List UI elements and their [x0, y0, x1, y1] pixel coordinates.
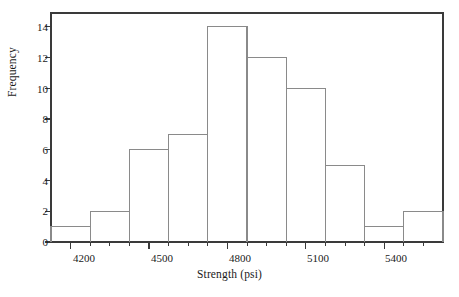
x-tick-label: 4200 — [62, 253, 106, 264]
histogram-bar — [365, 227, 404, 242]
x-tick-label: 4500 — [140, 253, 184, 264]
y-tick-label: 6 — [26, 145, 48, 156]
y-tick-label: 4 — [26, 176, 48, 187]
histogram-bar — [51, 227, 90, 242]
x-axis-minor-ticks — [90, 242, 423, 246]
histogram-bar — [208, 27, 247, 242]
x-axis-title: Strength (psi) — [0, 268, 459, 280]
y-tick-label: 12 — [26, 53, 48, 64]
histogram-bar — [169, 134, 208, 242]
y-tick-label: 8 — [26, 114, 48, 125]
x-tick-label: 5100 — [296, 253, 340, 264]
y-axis-title: Frequency — [6, 0, 24, 97]
histogram-bar — [129, 150, 168, 242]
histogram-figure: Frequency Strength (psi) 0 2 4 6 8 10 12… — [0, 0, 459, 297]
y-tick-label: 0 — [26, 237, 48, 248]
y-tick-label: 10 — [26, 84, 48, 95]
histogram-bar — [286, 88, 325, 242]
x-tick-label: 4800 — [218, 253, 262, 264]
y-tick-label: 14 — [26, 22, 48, 33]
histogram-bars — [51, 27, 443, 242]
histogram-bar — [90, 211, 129, 242]
y-tick-label: 2 — [26, 206, 48, 217]
x-tick-label: 5400 — [374, 253, 418, 264]
histogram-bar — [325, 165, 364, 242]
x-axis-major-ticks — [71, 242, 385, 249]
histogram-bar — [247, 58, 286, 242]
histogram-bar — [404, 211, 443, 242]
